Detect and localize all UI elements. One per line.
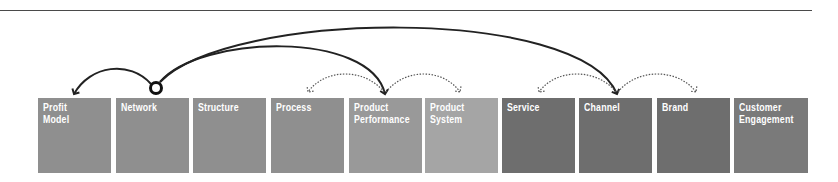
box-label-line1: Process	[276, 102, 331, 114]
network-origin-circle	[151, 83, 162, 94]
box-label-line1: Brand	[662, 102, 717, 114]
arrow-network-to-product-performance	[160, 46, 385, 94]
arrow-network-to-channel	[160, 28, 617, 94]
box-label-line2: Engagement	[739, 114, 795, 126]
box-label-line1: Product	[354, 102, 409, 114]
box-product-system: Product System	[425, 98, 498, 173]
box-profit-model: Profit Model	[38, 98, 111, 173]
box-brand: Brand	[657, 98, 730, 173]
arrow-network-to-profit-model	[74, 69, 151, 94]
box-label-line1: Structure	[198, 102, 253, 114]
box-label-line1: Product	[430, 102, 485, 114]
box-label-line1: Service	[507, 102, 562, 114]
box-label-line1: Profit	[43, 102, 98, 114]
box-label-line1: Channel	[584, 102, 639, 114]
box-channel: Channel	[579, 98, 652, 173]
box-label-line2: Performance	[354, 114, 409, 126]
box-label-line1: Network	[121, 102, 176, 114]
box-product-performance: Product Performance	[349, 98, 422, 173]
dotted-arrow-to-process	[308, 74, 384, 92]
box-process: Process	[271, 98, 344, 173]
box-service: Service	[502, 98, 575, 173]
box-structure: Structure	[193, 98, 266, 173]
dotted-arrow-to-product-system	[386, 74, 460, 92]
box-label-line1: Customer	[739, 102, 795, 114]
box-network: Network	[116, 98, 189, 173]
box-customer-engagement: Customer Engagement	[734, 98, 808, 173]
dotted-arrow-to-brand	[618, 74, 696, 92]
box-label-line2: Model	[43, 114, 98, 126]
box-label-line2: System	[430, 114, 485, 126]
